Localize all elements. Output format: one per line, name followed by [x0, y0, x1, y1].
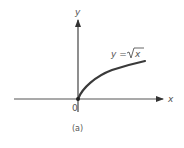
y-axis-label: y	[74, 7, 81, 17]
x-axis-label: x	[167, 94, 174, 104]
origin-label: 0	[72, 103, 78, 113]
curve-label-lhs: y =	[110, 49, 127, 59]
figure-caption: (a)	[72, 124, 83, 133]
curve-label-radicand: x	[134, 49, 141, 59]
sqrt-curve	[78, 61, 145, 99]
sqrt-graph: y x 0 y = x (a)	[0, 0, 184, 148]
origin-point	[76, 97, 80, 101]
